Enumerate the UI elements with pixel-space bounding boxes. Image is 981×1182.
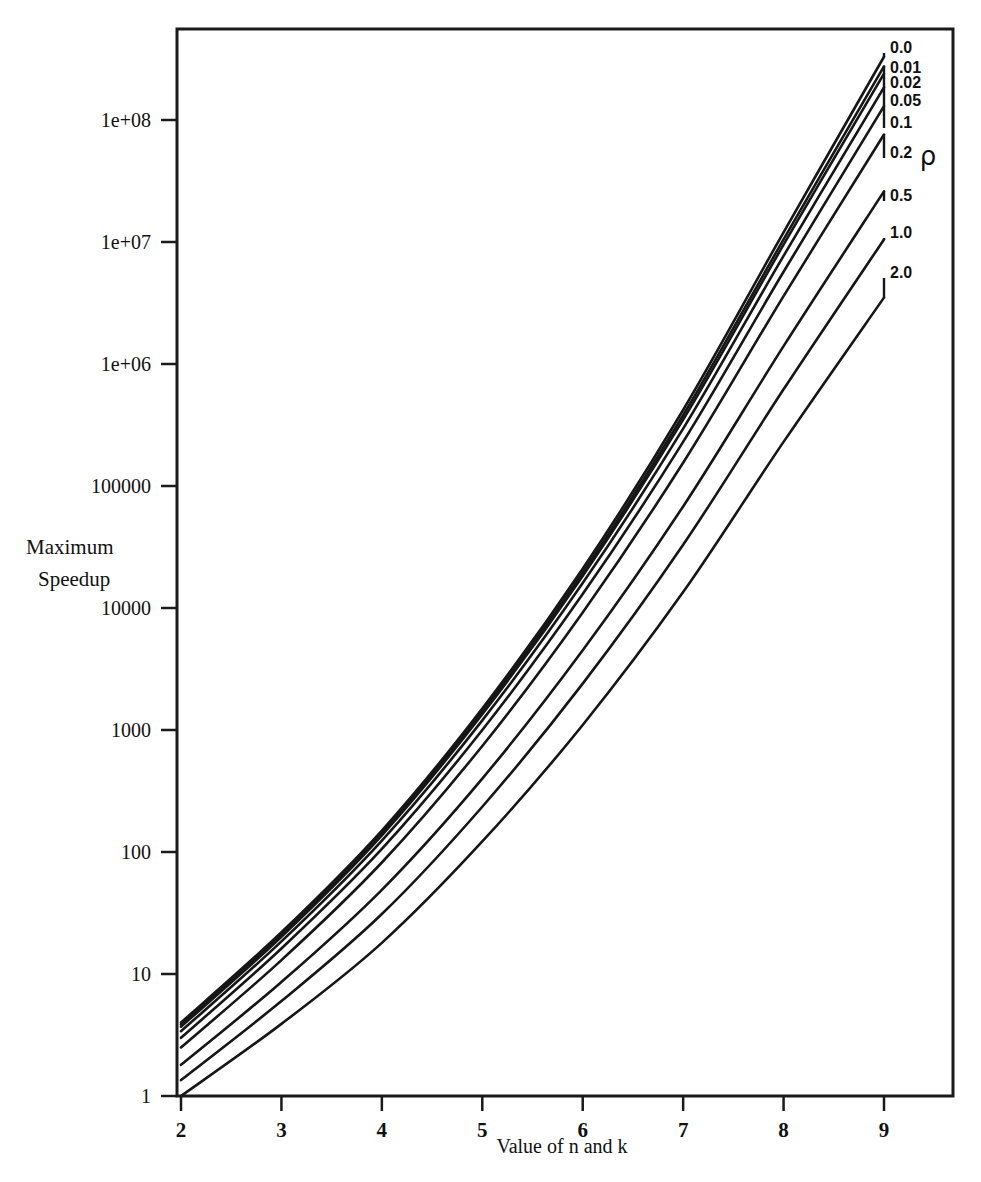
series-label-rho-0.2: 0.2 xyxy=(890,144,912,162)
series-line-rho-0.0 xyxy=(181,57,884,1023)
chart-plot-area xyxy=(0,0,981,1182)
y-tick-label-1e+06: 1e+06 xyxy=(0,353,151,376)
series-label-rho-0.02: 0.02 xyxy=(890,74,921,92)
y-axis-ticks xyxy=(161,120,177,1096)
x-tick-label-9: 9 xyxy=(879,1118,890,1143)
y-axis-title: Maximum Speedup xyxy=(26,532,114,595)
series-label-rho-0.05: 0.05 xyxy=(890,92,921,110)
x-tick-label-3: 3 xyxy=(276,1118,287,1143)
x-tick-label-2: 2 xyxy=(176,1118,187,1143)
data-series-group xyxy=(181,57,884,1096)
x-tick-label-7: 7 xyxy=(678,1118,689,1143)
y-tick-label-10: 10 xyxy=(0,963,151,986)
y-tick-label-1e+07: 1e+07 xyxy=(0,231,151,254)
series-line-rho-0.05 xyxy=(181,87,884,1031)
x-axis-title: Value of n and k xyxy=(496,1135,627,1158)
y-tick-label-10000: 10000 xyxy=(0,597,151,620)
x-tick-label-4: 4 xyxy=(377,1118,388,1143)
x-tick-label-8: 8 xyxy=(778,1118,789,1143)
series-line-rho-0.02 xyxy=(181,74,884,1027)
chart-figure: 1101001000100001000001e+061e+071e+08 234… xyxy=(0,0,981,1182)
series-label-rho-1.0: 1.0 xyxy=(890,224,912,242)
series-line-rho-0.5 xyxy=(181,191,884,1064)
y-tick-label-1e+08: 1e+08 xyxy=(0,109,151,132)
y-tick-label-100: 100 xyxy=(0,841,151,864)
x-tick-label-5: 5 xyxy=(477,1118,488,1143)
y-tick-label-100000: 100000 xyxy=(0,475,151,498)
series-line-rho-0.01 xyxy=(181,66,884,1024)
series-label-rho-0.1: 0.1 xyxy=(890,114,912,132)
y-axis-title-line2: Speedup xyxy=(26,564,114,596)
legend-rho-symbol: ρ xyxy=(920,141,937,171)
y-tick-label-1: 1 xyxy=(0,1085,151,1108)
series-label-rho-2.0: 2.0 xyxy=(890,264,912,282)
series-label-rho-0.0: 0.0 xyxy=(890,39,912,57)
x-axis-ticks xyxy=(181,1096,884,1111)
y-tick-label-1000: 1000 xyxy=(0,719,151,742)
y-axis-title-line1: Maximum xyxy=(26,535,114,559)
series-label-rho-0.5: 0.5 xyxy=(890,187,912,205)
series-line-rho-0.2 xyxy=(181,135,884,1048)
